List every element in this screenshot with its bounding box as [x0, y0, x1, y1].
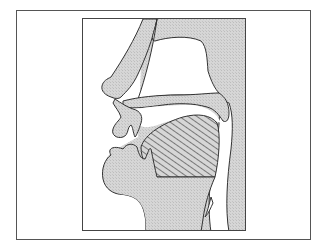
diagram-frame [82, 18, 246, 231]
vocal-tract-diagram [83, 19, 246, 231]
